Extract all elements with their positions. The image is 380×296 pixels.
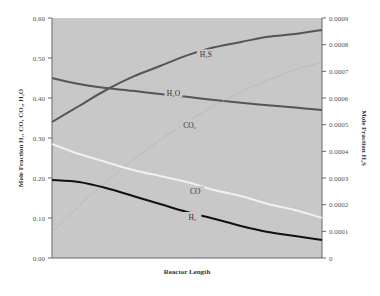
right-axis: 00.00010.00020.00030.00040.00050.00060.0… bbox=[322, 15, 349, 263]
y-axis-title: Mole Fraction H₂, CO, CO₂, H₂O bbox=[17, 88, 25, 187]
y2-tick-label: 0.0006 bbox=[329, 95, 349, 103]
series-label-co: CO bbox=[190, 187, 201, 196]
x-axis-title: Reactor Length bbox=[164, 268, 211, 276]
y2-tick-label: 0.0005 bbox=[329, 121, 349, 129]
y2-tick-label: 0.0009 bbox=[329, 15, 349, 23]
y-tick-label: 0.10 bbox=[33, 215, 46, 223]
plot-area bbox=[52, 18, 322, 258]
y-tick-label: 0.00 bbox=[33, 255, 46, 263]
left-axis: 0.000.100.200.300.400.500.60 bbox=[33, 15, 52, 263]
series-label-h2: H₂ bbox=[188, 213, 196, 222]
y2-tick-label: 0.0008 bbox=[329, 41, 349, 49]
y2-tick-label: 0.0004 bbox=[329, 148, 349, 156]
y2-tick-label: 0.0003 bbox=[329, 175, 349, 183]
y-tick-label: 0.30 bbox=[33, 135, 46, 143]
series-label-co2: CO₂ bbox=[183, 121, 196, 130]
series-label-h2s: H₂S bbox=[200, 50, 212, 59]
y2-tick-label: 0.0001 bbox=[329, 228, 349, 236]
series-label-h2o: H₂O bbox=[167, 89, 181, 98]
y2-tick-label: 0 bbox=[329, 255, 333, 263]
y2-tick-label: 0.0002 bbox=[329, 201, 349, 209]
y-tick-label: 0.60 bbox=[33, 15, 46, 23]
y2-tick-label: 0.0007 bbox=[329, 68, 349, 76]
y-tick-label: 0.40 bbox=[33, 95, 46, 103]
line-chart: 0.000.100.200.300.400.500.60 00.00010.00… bbox=[0, 0, 380, 296]
y-tick-label: 0.20 bbox=[33, 175, 46, 183]
y2-axis-title: Mole Fraction H₂S bbox=[360, 110, 368, 166]
y-tick-label: 0.50 bbox=[33, 55, 46, 63]
